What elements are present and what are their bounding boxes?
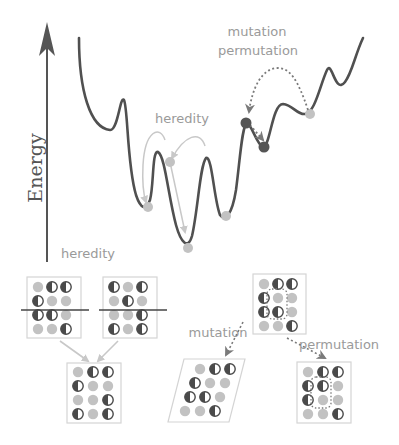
atom-half-dark: [109, 282, 119, 292]
atom-light: [61, 296, 71, 306]
atom-light: [33, 324, 43, 334]
atom-light: [137, 296, 147, 306]
local-minimum-dot: [221, 211, 231, 221]
atom-light: [318, 409, 328, 419]
atom-half-dark: [259, 293, 269, 303]
parent-dot: [305, 109, 315, 119]
atom-light: [205, 378, 215, 388]
merge-arrow-right: [98, 341, 118, 361]
atom-light: [73, 395, 83, 405]
permutation-label-top: permutation: [218, 43, 298, 58]
permutation-label-bottom: permutation: [299, 337, 379, 352]
atom-light: [123, 310, 133, 320]
landscape-points-light: [143, 109, 315, 253]
atom-half-dark: [137, 282, 147, 292]
atom-half-dark: [225, 364, 235, 374]
parent-b-structure: [99, 277, 167, 338]
atom-light: [47, 324, 57, 334]
atom-light: [333, 395, 343, 405]
atom-light: [195, 364, 205, 374]
atom-light: [195, 406, 205, 416]
atom-light: [273, 293, 283, 303]
atom-light: [318, 395, 328, 405]
atom-half-dark: [123, 296, 133, 306]
heredity-label-top: heredity: [155, 111, 209, 126]
atom-half-dark: [33, 310, 43, 320]
atom-light: [333, 381, 343, 391]
global-minimum-dot: [183, 243, 193, 253]
permuted-structure: [297, 362, 351, 423]
atom-half-dark: [47, 282, 57, 292]
mutated-structure: [168, 359, 245, 422]
heredity-drop-arrow: [170, 162, 185, 232]
atom-light: [220, 378, 230, 388]
atom-light: [303, 367, 313, 377]
atom-light: [103, 381, 113, 391]
atom-half-dark: [73, 409, 83, 419]
atom-half-dark: [137, 324, 147, 334]
atom-half-dark: [259, 307, 269, 317]
atom-half-dark: [61, 324, 71, 334]
atom-half-dark: [200, 392, 210, 402]
mutation-label-bottom: mutation: [189, 325, 248, 340]
atom-half-dark: [333, 409, 343, 419]
energy-landscape-diagram: Energy heredity mutation permutation her…: [0, 0, 399, 445]
atom-light: [180, 406, 190, 416]
mutation-label-top: mutation: [228, 24, 287, 39]
parent-a-structure: [21, 277, 89, 338]
atom-half-dark: [210, 364, 220, 374]
atom-light: [88, 381, 98, 391]
atom-half-dark: [103, 395, 113, 405]
atom-light: [303, 409, 313, 419]
atom-half-dark: [33, 296, 43, 306]
atom-light: [259, 321, 269, 331]
heredity-merge-arrows: [60, 341, 118, 361]
energy-axis-label: Energy: [24, 133, 46, 203]
mutation-arrows-top: [249, 68, 308, 140]
source-structure: [253, 274, 306, 334]
child-structure: [67, 363, 121, 423]
atom-half-dark: [287, 279, 297, 289]
energy-curve: [79, 38, 363, 243]
atom-half-dark: [190, 378, 200, 388]
atom-half-dark: [109, 324, 119, 334]
relaxed-dot: [259, 142, 270, 153]
atom-half-dark: [333, 367, 343, 377]
atom-light: [273, 321, 283, 331]
atom-half-dark: [103, 367, 113, 377]
atom-light: [123, 324, 133, 334]
atom-half-dark: [61, 282, 71, 292]
atom-half-dark: [88, 367, 98, 377]
atom-half-dark: [185, 392, 195, 402]
atom-half-dark: [47, 310, 57, 320]
atom-half-dark: [103, 409, 113, 419]
energy-axis: Energy: [24, 22, 55, 262]
atom-light: [88, 409, 98, 419]
atom-light: [123, 282, 133, 292]
atom-light: [109, 296, 119, 306]
atom-light: [287, 293, 297, 303]
atom-half-dark: [137, 310, 147, 320]
atom-half-dark: [318, 381, 328, 391]
atom-light: [109, 310, 119, 320]
atom-light: [88, 395, 98, 405]
merge-arrow-left: [60, 341, 88, 361]
atom-half-dark: [73, 381, 83, 391]
atom-light: [47, 296, 57, 306]
atom-light: [259, 279, 269, 289]
atom-light: [61, 310, 71, 320]
atom-light: [287, 307, 297, 317]
atom-half-dark: [273, 307, 283, 317]
heredity-label-bottom: heredity: [61, 246, 115, 261]
mutated-dot: [241, 118, 252, 129]
atom-light: [215, 392, 225, 402]
local-minimum-dot: [143, 202, 153, 212]
atom-half-dark: [287, 321, 297, 331]
offspring-dot: [165, 157, 175, 167]
atom-light: [33, 282, 43, 292]
heredity-arc-right: [172, 137, 205, 158]
atom-half-dark: [273, 279, 283, 289]
atom-half-dark: [210, 406, 220, 416]
atom-half-dark: [318, 367, 328, 377]
atom-light: [73, 367, 83, 377]
